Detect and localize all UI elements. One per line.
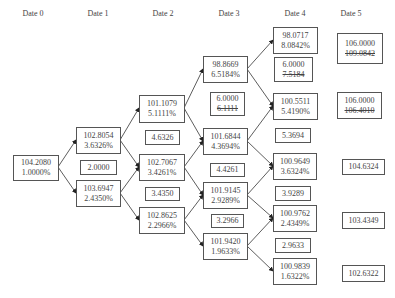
node-value: 106.0000 (345, 96, 375, 106)
node-rate: 6.5184% (211, 70, 240, 80)
mid-value: 3.2966 (217, 216, 239, 226)
node-price: 103.6947 (84, 184, 114, 194)
node-price: 102.8625 (147, 211, 177, 221)
node-price: 98.0717 (283, 31, 309, 41)
node-date3-2: 101.9145 2.9289% (203, 182, 248, 209)
node-date5-0: 106.0000 109.0842 (337, 33, 383, 64)
node-date5-3: 103.4349 (342, 212, 385, 229)
node-price: 100.9762 (280, 209, 310, 219)
mid-value: 3.9289 (282, 189, 304, 199)
node-rate: 8.0842% (281, 41, 310, 51)
node-rate: 2.4350% (84, 194, 113, 204)
node-date4-1: 100.5511 5.4190% (273, 93, 318, 120)
node-rate: 4.3694% (211, 142, 240, 152)
node-value-struck: 109.0842 (345, 49, 375, 59)
node-rate: 3.6326% (84, 141, 113, 151)
mid-value-date4-c: 3.9289 (275, 186, 311, 201)
node-date4-4: 100.9839 1.6322% (273, 258, 317, 285)
node-date2-0: 101.1079 5.1111% (139, 95, 185, 123)
node-date5-1: 106.0000 106.4010 (337, 92, 382, 119)
node-rate: 2.2966% (148, 221, 177, 231)
node-rate: 1.0000% (22, 168, 51, 178)
mid-value: 4.6326 (152, 133, 174, 143)
node-date4-0: 98.0717 8.0842% (273, 27, 318, 54)
mid-value: 2.0000 (88, 163, 110, 173)
node-date3-3: 101.9420 1.9633% (203, 233, 248, 260)
node-date5-2: 104.6324 (342, 159, 385, 175)
node-date4-2: 100.9649 3.6324% (273, 153, 317, 180)
node-rate: 5.4190% (281, 107, 310, 117)
node-value: 103.4349 (349, 216, 379, 226)
node-price: 104.2080 (21, 158, 51, 168)
mid-value-date4-b: 5.3694 (275, 128, 311, 143)
node-price: 101.9145 (211, 186, 241, 196)
mid-value: 6.0000 (283, 60, 305, 70)
mid-value-struck: 6.1111 (217, 104, 238, 114)
node-price: 100.5511 (281, 97, 311, 107)
node-price: 98.8669 (213, 60, 239, 70)
node-price: 101.1079 (147, 99, 177, 109)
mid-value-date3-a: 6.0000 6.1111 (210, 92, 245, 116)
mid-value: 4.4261 (217, 165, 239, 175)
node-date2-1: 102.7067 3.4261% (139, 154, 185, 181)
node-value: 102.6322 (349, 269, 379, 279)
node-rate: 2.9289% (211, 196, 240, 206)
node-value-struck: 106.4010 (345, 106, 375, 116)
mid-value-date4-a: 6.0000 7.5184 (274, 57, 313, 82)
node-price: 101.6844 (211, 132, 241, 142)
node-rate: 3.6324% (281, 167, 310, 177)
mid-value-struck: 7.5184 (283, 70, 305, 80)
mid-value-date2-a: 4.6326 (145, 130, 180, 145)
node-rate: 1.9633% (211, 247, 240, 257)
node-date4-3: 100.9762 2.4349% (273, 205, 317, 232)
node-price: 100.9839 (280, 262, 310, 272)
node-date1-up: 102.8054 3.6326% (76, 127, 121, 154)
node-rate: 2.4349% (281, 219, 310, 229)
mid-value-date2-b: 3.4350 (145, 187, 180, 201)
node-rate: 1.6322% (281, 272, 310, 282)
node-date1-down: 103.6947 2.4350% (76, 180, 121, 207)
node-date0: 104.2080 1.0000% (13, 155, 59, 181)
tree-arrows (0, 0, 395, 298)
mid-value: 2.9633 (282, 241, 304, 251)
node-price: 102.8054 (84, 131, 114, 141)
node-value: 104.6324 (349, 162, 379, 172)
node-date3-1: 101.6844 4.3694% (203, 128, 248, 155)
node-date5-4: 102.6322 (342, 265, 385, 282)
node-price: 102.7067 (147, 158, 177, 168)
mid-value-date4-d: 2.9633 (275, 238, 311, 253)
mid-value: 6.0000 (217, 94, 239, 104)
mid-value-date3-c: 3.2966 (211, 214, 244, 228)
node-date2-2: 102.8625 2.2966% (139, 207, 185, 234)
mid-value: 5.3694 (282, 131, 304, 141)
node-value: 106.0000 (345, 39, 375, 49)
node-rate: 5.1111% (148, 109, 176, 119)
mid-value-date3-b: 4.4261 (210, 163, 245, 177)
mid-value: 3.4350 (152, 189, 174, 199)
node-date3-0: 98.8669 6.5184% (203, 56, 248, 83)
mid-value-date1: 2.0000 (80, 160, 117, 175)
node-rate: 3.4261% (148, 168, 177, 178)
node-price: 100.9649 (280, 157, 310, 167)
node-price: 101.9420 (211, 237, 241, 247)
